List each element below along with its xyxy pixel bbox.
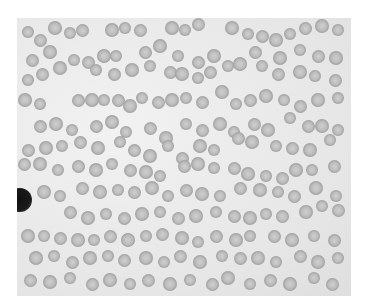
red-blood-cell xyxy=(289,163,303,177)
red-blood-cell xyxy=(311,255,325,269)
red-blood-cell xyxy=(309,181,323,195)
red-blood-cell xyxy=(145,181,159,195)
red-blood-cell xyxy=(330,190,342,202)
red-blood-cell xyxy=(125,63,139,77)
red-blood-cell xyxy=(189,209,203,223)
red-blood-cell xyxy=(128,186,141,199)
red-blood-cell xyxy=(72,94,85,107)
red-blood-cell xyxy=(324,134,336,146)
red-blood-cell xyxy=(302,120,315,133)
red-blood-cell xyxy=(311,93,325,107)
red-blood-cell xyxy=(284,112,296,124)
red-blood-cell xyxy=(123,99,137,113)
red-blood-cell xyxy=(213,117,227,131)
red-blood-cell xyxy=(64,206,77,219)
red-blood-cell xyxy=(66,256,79,269)
red-blood-cell xyxy=(118,254,131,267)
red-blood-cell xyxy=(83,251,97,265)
red-blood-cell xyxy=(278,94,290,106)
red-blood-cell xyxy=(76,182,89,195)
red-blood-cell xyxy=(154,170,166,182)
red-blood-cell xyxy=(18,158,31,171)
red-blood-cell xyxy=(316,200,328,212)
red-blood-cell xyxy=(283,277,297,291)
red-blood-cell xyxy=(85,93,99,107)
red-blood-cell xyxy=(175,231,189,245)
red-blood-cell xyxy=(253,183,267,197)
red-blood-cell xyxy=(43,45,57,59)
red-blood-cell xyxy=(108,68,121,81)
red-blood-cell xyxy=(91,141,105,155)
red-blood-cell xyxy=(37,185,51,199)
red-blood-cell xyxy=(260,208,272,220)
red-blood-cell xyxy=(329,74,342,87)
red-blood-cell xyxy=(228,162,241,175)
red-blood-cell xyxy=(299,22,312,35)
red-blood-cell xyxy=(144,60,156,72)
red-blood-cell xyxy=(90,64,102,76)
red-blood-cell xyxy=(136,92,148,104)
red-blood-cell xyxy=(72,160,85,173)
red-blood-cell xyxy=(312,50,325,63)
red-blood-cell xyxy=(251,251,265,265)
red-blood-cell xyxy=(174,250,187,263)
red-blood-cell xyxy=(328,160,341,173)
red-blood-cell xyxy=(288,190,301,203)
red-blood-cell xyxy=(105,23,119,37)
red-blood-cell xyxy=(249,46,262,59)
red-blood-cell xyxy=(98,94,110,106)
red-blood-cell xyxy=(102,250,114,262)
red-blood-cell xyxy=(112,184,124,196)
red-blood-cell xyxy=(191,157,205,171)
red-blood-cell xyxy=(196,124,209,137)
red-blood-cell xyxy=(210,230,223,243)
red-blood-cell xyxy=(193,139,207,153)
red-blood-cell xyxy=(273,51,287,65)
red-blood-cell xyxy=(118,212,131,225)
red-blood-cell xyxy=(33,157,47,171)
red-blood-cell xyxy=(56,140,68,152)
red-blood-cell xyxy=(207,49,221,63)
red-blood-cell xyxy=(53,61,67,75)
red-blood-cell xyxy=(76,24,89,37)
red-blood-cell xyxy=(228,210,241,223)
red-blood-cell xyxy=(180,118,192,130)
red-blood-cell xyxy=(165,93,179,107)
red-blood-cell xyxy=(293,65,307,79)
red-blood-cell xyxy=(241,167,255,181)
red-blood-cell xyxy=(243,211,257,225)
red-blood-cell xyxy=(332,24,344,36)
red-blood-cell xyxy=(119,22,131,34)
red-blood-cell xyxy=(140,230,152,242)
red-blood-cell xyxy=(261,123,275,137)
red-blood-cell xyxy=(256,60,268,72)
red-blood-cell xyxy=(180,92,192,104)
red-blood-cell xyxy=(154,206,166,218)
red-blood-cell xyxy=(229,233,243,247)
red-blood-cell xyxy=(306,164,318,176)
red-blood-cell xyxy=(214,190,226,202)
red-blood-cell xyxy=(172,212,185,225)
red-blood-cell xyxy=(184,274,196,286)
red-blood-cell xyxy=(259,89,273,103)
red-blood-cell xyxy=(100,208,112,220)
red-blood-cell xyxy=(74,136,87,149)
red-blood-cell xyxy=(34,120,47,133)
red-blood-cell xyxy=(52,164,64,176)
red-blood-cell xyxy=(294,100,307,113)
red-blood-cell xyxy=(244,278,256,290)
red-blood-cell xyxy=(332,252,344,264)
red-blood-cell xyxy=(162,140,174,152)
red-blood-cell xyxy=(86,278,99,291)
red-blood-cell xyxy=(233,57,247,71)
red-blood-cell xyxy=(192,72,204,84)
red-blood-cell xyxy=(216,250,228,262)
red-blood-cell xyxy=(143,149,157,163)
red-blood-cell xyxy=(89,163,103,177)
red-blood-cell xyxy=(192,236,204,248)
red-blood-cell xyxy=(103,273,117,287)
red-blood-cell xyxy=(139,251,153,265)
red-blood-cell xyxy=(276,172,289,185)
red-blood-cell xyxy=(276,210,289,223)
blood-smear-micrograph xyxy=(17,18,351,296)
